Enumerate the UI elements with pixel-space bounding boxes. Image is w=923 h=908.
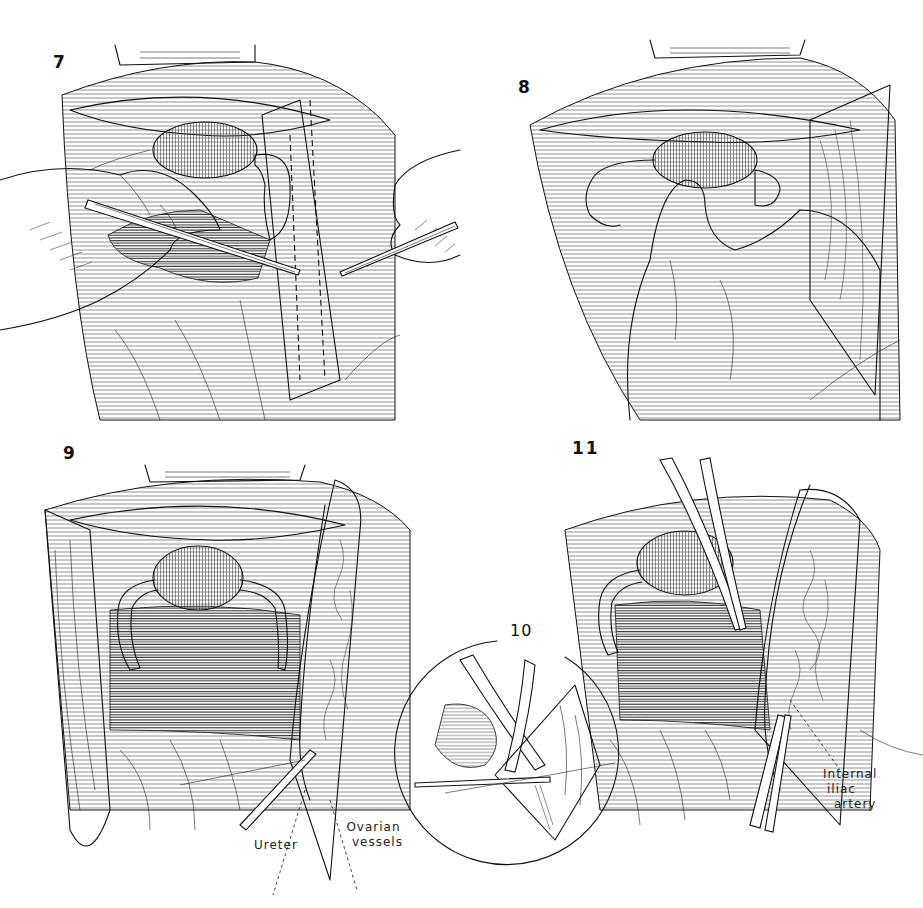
callout-internal-iliac-artery: Internal iliac artery: [823, 767, 877, 812]
callout-internal-iliac-line1: Internal: [823, 767, 877, 782]
callout-ureter-text: Ureter: [254, 838, 298, 852]
figure-11-illustration: [540, 430, 923, 880]
figure-8: 8: [480, 0, 923, 430]
figure-8-illustration: [480, 0, 923, 430]
callout-ureter: Ureter: [254, 838, 298, 853]
callout-internal-iliac-line3: artery: [823, 797, 877, 812]
figure-7: 7: [0, 0, 460, 420]
figure-11: 11 Inter: [540, 430, 923, 880]
figure-7-illustration: [0, 0, 460, 420]
callout-internal-iliac-line2: iliac: [823, 782, 877, 797]
